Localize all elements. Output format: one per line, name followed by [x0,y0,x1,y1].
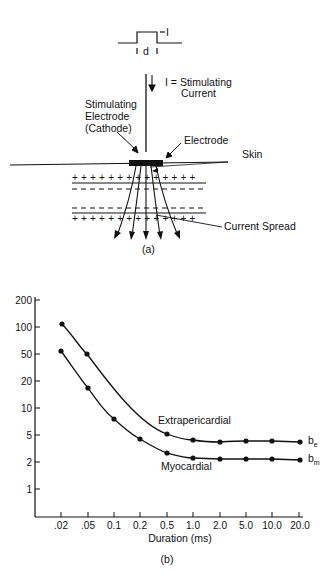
arrowhead-icons [114,230,180,240]
current-label-line2: Current [181,87,216,99]
svg-text:200: 200 [15,295,32,306]
x-ticks [61,512,299,517]
y-tick-labels: 200 100 50 20 10 5 2 1 [15,295,32,495]
svg-text:50: 50 [21,349,33,360]
be-label: be [308,434,318,448]
skin-label: Skin [242,148,263,160]
series-extrapericardial-points [59,321,302,444]
svg-text:2: 2 [26,457,32,468]
svg-text:1.0: 1.0 [186,520,200,531]
svg-text:100: 100 [15,322,32,333]
stim-electrode-label-1: Stimulating [85,98,137,110]
extrapericardial-label: Extrapericardial [158,414,231,426]
svg-text:10.0: 10.0 [262,520,282,531]
membrane-lower: ++++++++++++++ [72,208,206,224]
current-spread-label: Current Spread [224,220,296,232]
myocardial-label: Myocardial [161,460,212,472]
svg-text:1: 1 [26,484,32,495]
stim-electrode-pointer-arrow-icon [117,132,138,153]
pulse-width-label: d [143,45,149,57]
svg-text:++++++++++++++: ++++++++++++++ [72,172,199,183]
current-arrow-icon [149,75,155,91]
svg-text:20: 20 [21,376,33,387]
panel-b-caption: (b) [161,553,174,565]
electrode-label: Electrode [184,134,229,146]
y-ticks [35,300,40,489]
svg-text:.05: .05 [81,520,95,531]
svg-text:20.0: 20.0 [290,520,310,531]
electrode-pointer-arrow-icon [166,143,181,158]
pulse-waveform [118,32,182,54]
panel-a-caption: (a) [142,243,155,255]
electrode-plate [129,160,163,166]
x-tick-labels: .02 .05 0.1 0.2 0.5 1.0 2.0 5.0 10.0 20.… [54,520,310,531]
svg-text:0.5: 0.5 [160,520,174,531]
skin-line [10,162,228,165]
bm-label: bm [308,452,320,466]
svg-text:0.1: 0.1 [107,520,121,531]
figure: I d I = Stimulating Current Stimulating … [0,0,335,587]
svg-text:2.0: 2.0 [213,520,227,531]
chart-axes [35,297,303,517]
stim-electrode-label-2: Electrode [85,110,130,122]
svg-text:0.2: 0.2 [133,520,147,531]
svg-text:.02: .02 [54,520,68,531]
pulse-amplitude-label: I [166,26,169,38]
svg-text:10: 10 [21,403,33,414]
svg-text:5: 5 [26,430,32,441]
x-axis-label: Duration (ms) [148,532,212,544]
svg-text:5.0: 5.0 [239,520,253,531]
stim-electrode-label-3: (Cathode) [85,122,132,134]
